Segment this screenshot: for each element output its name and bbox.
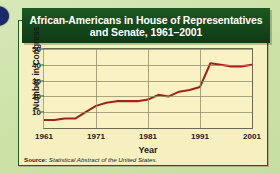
source-note: Source: Statistical Abstract of the Unit… [24,156,157,163]
x-tick-label-1981: 1981 [139,132,157,141]
y-tick-label-20: 20 [32,92,41,101]
source-text: Statistical Abstract of the United State… [49,156,157,163]
chart-title-banner: African-Americans in House of Representa… [22,8,270,43]
y-tickmark-30 [41,80,44,81]
y-tick-label-10: 10 [32,108,41,117]
y-tick-label-40: 40 [32,60,41,69]
x-tick-label-2001: 2001 [243,132,261,141]
chart-container: Number in Congress 50 40 30 20 10 1961 1… [18,43,268,166]
y-tick-label-50: 50 [32,45,41,54]
y-tickmark-40 [41,64,44,65]
y-tickmark-50 [41,49,44,50]
page-title: African-Americans in House of Representa… [22,14,270,38]
x-tick-label-1961: 1961 [35,132,53,141]
gridline-v-1981 [148,49,149,128]
y-tickmark-10 [41,112,44,113]
gridline-v-1991 [200,49,201,128]
y-tick-label-30: 30 [32,76,41,85]
source-prefix: Source: [24,156,47,163]
x-tick-label-1991: 1991 [191,132,209,141]
x-tick-label-1971: 1971 [87,132,105,141]
y-tickmark-20 [41,96,44,97]
x-axis-label: Year [43,145,253,155]
plot-area: 50 40 30 20 10 1961 1971 1981 1991 2001 [43,48,253,129]
gridline-v-1971 [96,49,97,128]
